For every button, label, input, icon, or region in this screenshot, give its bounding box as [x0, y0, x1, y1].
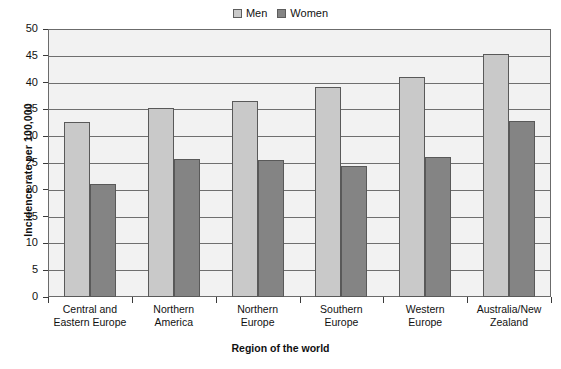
- gridline: [49, 217, 550, 218]
- x-axis-title: Region of the world: [0, 342, 561, 354]
- y-axis-tick: [43, 216, 48, 217]
- x-axis-category-label-line: Eastern Europe: [48, 316, 132, 329]
- legend-label-women: Women: [290, 8, 328, 19]
- y-axis-label: 40: [4, 77, 38, 88]
- y-axis-label: 50: [4, 23, 38, 34]
- x-axis-category-label-line: Southern: [300, 303, 384, 316]
- x-axis-category-label-line: Australia/New: [467, 303, 551, 316]
- legend-swatch-women: [277, 9, 286, 18]
- legend-swatch-men: [233, 9, 242, 18]
- x-axis-tick: [551, 297, 552, 303]
- gridline: [49, 136, 550, 137]
- gridline: [49, 83, 550, 84]
- bar-chart: Men Women Incidence rate per 100,000 051…: [0, 0, 561, 369]
- gridline: [49, 56, 550, 57]
- gridline: [49, 270, 550, 271]
- y-axis-tick: [43, 270, 48, 271]
- y-axis-tick: [43, 136, 48, 137]
- y-axis-label: 0: [4, 291, 38, 302]
- x-axis-category-label: SouthernEurope: [300, 303, 384, 329]
- gridline: [49, 190, 550, 191]
- x-axis-category-label-line: Central and: [48, 303, 132, 316]
- y-axis-label: 5: [4, 264, 38, 275]
- plot-area: [48, 29, 551, 297]
- x-axis-category-label: NorthernAmerica: [132, 303, 216, 329]
- gridline: [49, 243, 550, 244]
- x-axis-category-label-line: America: [132, 316, 216, 329]
- x-axis-category-label: WesternEurope: [383, 303, 467, 329]
- legend-item-men: Men: [233, 8, 267, 19]
- x-axis-category-label-line: Europe: [383, 316, 467, 329]
- y-axis-tick: [43, 55, 48, 56]
- x-axis-category-label-line: Europe: [300, 316, 384, 329]
- y-axis-label: 10: [4, 237, 38, 248]
- y-axis-label: 30: [4, 130, 38, 141]
- y-axis-tick: [43, 109, 48, 110]
- legend-item-women: Women: [277, 8, 328, 19]
- x-axis-category-label-line: Northern: [132, 303, 216, 316]
- y-axis-tick: [43, 29, 48, 30]
- x-axis-category-label: Central andEastern Europe: [48, 303, 132, 329]
- y-axis-label: 25: [4, 157, 38, 168]
- y-axis-label: 35: [4, 103, 38, 114]
- gridline: [49, 163, 550, 164]
- x-axis-category-label-line: Europe: [216, 316, 300, 329]
- chart-legend: Men Women: [0, 8, 561, 19]
- x-axis-category-label-line: Zealand: [467, 316, 551, 329]
- x-axis-category-label: NorthernEurope: [216, 303, 300, 329]
- y-axis-tick: [43, 163, 48, 164]
- y-axis-label: 20: [4, 184, 38, 195]
- gridlines: [49, 30, 550, 296]
- y-axis-label: 45: [4, 50, 38, 61]
- x-axis-category-label-line: Western: [383, 303, 467, 316]
- legend-label-men: Men: [246, 8, 267, 19]
- gridline: [49, 109, 550, 110]
- y-axis-tick: [43, 82, 48, 83]
- y-axis-tick: [43, 189, 48, 190]
- x-axis-category-label-line: Northern: [216, 303, 300, 316]
- y-axis-label: 15: [4, 211, 38, 222]
- y-axis-tick: [43, 243, 48, 244]
- x-axis-category-label: Australia/NewZealand: [467, 303, 551, 329]
